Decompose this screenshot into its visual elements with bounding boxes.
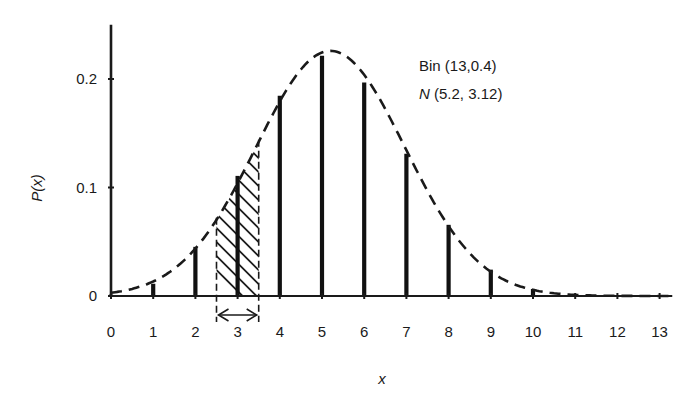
legend-normal-params: (5.2, 3.12) bbox=[430, 85, 503, 102]
x-axis-label: x bbox=[377, 370, 386, 387]
y-tick-label: 0.2 bbox=[76, 70, 97, 87]
x-tick-label: 6 bbox=[360, 323, 368, 340]
chart: 012345678910111213 00.10.2 x P(x) Bin (1… bbox=[0, 0, 695, 407]
x-tick-label: 1 bbox=[149, 323, 157, 340]
x-tick-label: 8 bbox=[444, 323, 452, 340]
y-tick-label: 0.1 bbox=[76, 179, 97, 196]
hatch-line bbox=[241, 126, 411, 296]
x-tick-label: 13 bbox=[651, 323, 668, 340]
y-ticks: 00.10.2 bbox=[76, 70, 114, 304]
x-tick-label: 2 bbox=[191, 323, 199, 340]
hatch-line bbox=[101, 126, 271, 296]
x-tick-label: 12 bbox=[609, 323, 626, 340]
x-tick-label: 4 bbox=[276, 323, 284, 340]
hatch-line bbox=[199, 126, 369, 296]
x-tick-label: 3 bbox=[233, 323, 241, 340]
hatch-line bbox=[227, 126, 397, 296]
hatch-line bbox=[269, 126, 439, 296]
hatch-line bbox=[129, 126, 299, 296]
binomial-stems bbox=[111, 56, 575, 296]
y-tick-label: 0 bbox=[89, 287, 97, 304]
hatch-line bbox=[143, 126, 313, 296]
x-tick-label: 7 bbox=[402, 323, 410, 340]
y-axis-label: P(x) bbox=[28, 174, 45, 202]
x-ticks: 012345678910111213 bbox=[107, 293, 668, 340]
legend-normal-symbol: N bbox=[419, 85, 430, 102]
legend-binomial: Bin (13,0.4) bbox=[419, 57, 497, 74]
legend-normal: N (5.2, 3.12) bbox=[419, 85, 502, 102]
x-tick-label: 10 bbox=[525, 323, 542, 340]
hatch-line bbox=[311, 126, 481, 296]
hatch-line bbox=[157, 126, 327, 296]
hatch-line bbox=[325, 126, 495, 296]
x-tick-label: 5 bbox=[318, 323, 326, 340]
x-tick-label: 9 bbox=[487, 323, 495, 340]
x-tick-label: 0 bbox=[107, 323, 115, 340]
hatch-lines bbox=[73, 126, 509, 296]
hatched-interval-area bbox=[73, 126, 509, 296]
hatch-line bbox=[283, 126, 453, 296]
hatch-line bbox=[185, 126, 355, 296]
hatch-line bbox=[73, 126, 243, 296]
x-tick-label: 11 bbox=[567, 323, 583, 340]
